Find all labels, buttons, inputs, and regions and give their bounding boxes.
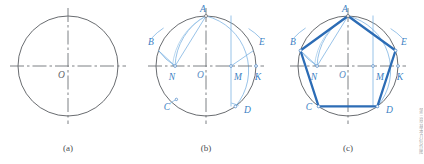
panel-b-label-K: K — [254, 72, 262, 82]
panel-c-point-N — [316, 65, 319, 68]
panel-c-label-K: K — [396, 72, 404, 82]
panel-b-label-N: N — [168, 72, 176, 82]
panel-c-arc-from-M — [348, 16, 391, 106]
margin-note: 第三章 基本几何作图 — [414, 108, 423, 160]
panel-c-point-B — [299, 49, 302, 52]
pentagon-construction-figure: O (a) — [0, 0, 424, 164]
panel-a-group: O (a) — [10, 8, 126, 153]
panel-b-label-E: E — [258, 37, 265, 47]
panel-a-caption: (a) — [63, 143, 73, 153]
panel-b-point-A — [205, 15, 208, 18]
panel-c-label-M: M — [375, 72, 385, 82]
panel-c-point-D — [376, 105, 379, 108]
panel-b-caption: (b) — [201, 143, 212, 153]
panel-b-arc-from-M — [206, 16, 249, 106]
panel-b-segment-M-to-E — [231, 51, 254, 67]
panel-a-center-label: O — [58, 70, 65, 80]
panel-b-label-C: C — [164, 102, 171, 112]
panel-c-point-E — [394, 49, 397, 52]
panel-b-point-C — [175, 98, 177, 100]
panel-b-point-D — [234, 105, 237, 108]
panel-b-center-label: O — [197, 70, 204, 80]
panel-b-segment-B-N — [158, 51, 175, 66]
panel-b-label-A: A — [199, 4, 206, 14]
panel-c-point-M — [372, 65, 375, 68]
panel-b-label-D: D — [243, 105, 251, 115]
panel-c-label-C: C — [306, 102, 313, 112]
figure-root: O (a) — [0, 0, 424, 164]
panel-b-label-B: B — [148, 37, 154, 47]
panel-c-caption: (c) — [343, 143, 353, 153]
panel-c-label-A: A — [341, 4, 348, 14]
panel-c-label-E: E — [400, 37, 407, 47]
panel-b-group: A B E N M K C D O (b) — [148, 4, 265, 153]
panel-c-center-label: O — [339, 70, 346, 80]
panel-c-label-B: B — [290, 37, 296, 47]
panel-c-point-A — [347, 15, 350, 18]
panel-c-label-N: N — [310, 72, 318, 82]
panel-b-point-K — [255, 65, 258, 68]
panel-c-group: A B E N M K C D O (c) — [290, 4, 407, 153]
panel-b-label-M: M — [233, 72, 243, 82]
panel-c-label-D: D — [385, 105, 393, 115]
panel-c-point-C — [317, 105, 320, 108]
panel-b-point-N — [174, 65, 177, 68]
panel-c-point-K — [397, 65, 400, 68]
panel-b-point-M — [230, 65, 233, 68]
